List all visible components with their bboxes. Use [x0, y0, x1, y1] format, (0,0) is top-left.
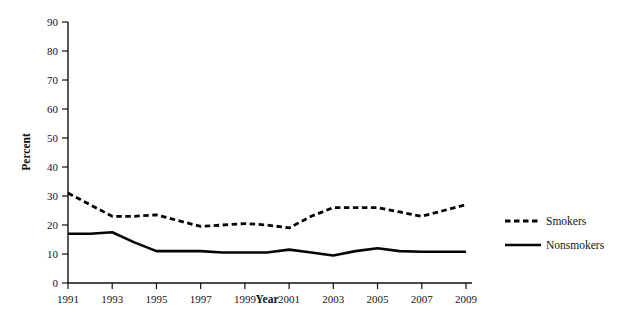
- x-tick-label: 1999: [234, 293, 257, 305]
- y-axis-ticks: 0102030405060708090: [47, 16, 68, 289]
- y-axis-title: Percent: [20, 133, 32, 171]
- legend-label-nonsmokers: Nonsmokers: [546, 239, 605, 251]
- x-tick-label: 2003: [322, 293, 345, 305]
- y-tick-label: 10: [47, 248, 59, 260]
- x-tick-label: 1993: [101, 293, 124, 305]
- y-tick-label: 40: [47, 161, 59, 173]
- x-tick-label: 1991: [57, 293, 79, 305]
- x-tick-label: 1997: [190, 293, 213, 305]
- y-tick-label: 80: [47, 45, 59, 57]
- legend-label-smokers: Smokers: [546, 215, 587, 227]
- series-line-nonsmokers: [68, 232, 466, 255]
- series-line-smokers: [68, 193, 466, 228]
- y-tick-label: 50: [47, 132, 59, 144]
- x-tick-label: 2001: [278, 293, 300, 305]
- chart-container: 0102030405060708090 19911993199519971999…: [0, 0, 627, 320]
- y-tick-label: 70: [47, 74, 59, 86]
- x-tick-label: 2009: [455, 293, 478, 305]
- chart-legend: SmokersNonsmokers: [505, 215, 605, 251]
- y-tick-label: 90: [47, 16, 59, 28]
- x-tick-label: 2007: [411, 293, 434, 305]
- x-axis-title: Year: [256, 293, 279, 305]
- line-chart: 0102030405060708090 19911993199519971999…: [0, 0, 627, 320]
- y-tick-label: 0: [53, 277, 59, 289]
- series-group: [68, 193, 466, 255]
- x-tick-label: 2005: [367, 293, 390, 305]
- y-tick-label: 60: [47, 103, 59, 115]
- x-tick-label: 1995: [145, 293, 168, 305]
- y-tick-label: 20: [47, 219, 59, 231]
- y-tick-label: 30: [47, 190, 59, 202]
